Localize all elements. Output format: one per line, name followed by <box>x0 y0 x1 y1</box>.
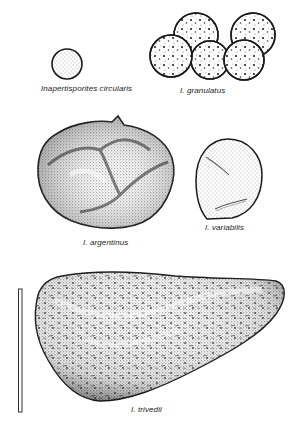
specimen-variabilis <box>196 139 262 219</box>
scale-bar <box>19 289 23 412</box>
specimen-argentinus <box>38 116 174 228</box>
label-granulatus: I. granulatus <box>180 86 225 95</box>
spore-illustrations <box>0 0 301 431</box>
label-trivedii: I. trivedii <box>131 405 162 414</box>
label-circularis: Inapertisporites circularis <box>41 84 132 93</box>
spore-plate-figure: Inapertisporites circularis I. granulatu… <box>0 0 301 431</box>
specimen-granulatus <box>150 13 275 80</box>
specimen-circularis <box>52 49 82 79</box>
label-argentinus: I. argentinus <box>83 238 128 247</box>
specimen-trivedii <box>35 272 284 401</box>
label-variabilis: I. variabilis <box>205 223 244 232</box>
